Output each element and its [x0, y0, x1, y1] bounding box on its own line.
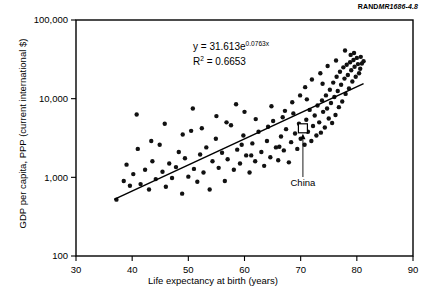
data-point [259, 150, 263, 154]
data-point [361, 59, 365, 63]
data-point [216, 166, 220, 170]
data-point [305, 97, 309, 101]
data-point [239, 142, 243, 146]
data-point [200, 126, 204, 130]
data-point [309, 139, 313, 143]
data-point [304, 118, 308, 122]
data-point [287, 160, 291, 164]
figure-root: RANDMR1686-4.8 GDP per capita, PPP (curr… [0, 0, 426, 298]
data-point [214, 136, 218, 140]
y-tick-label: 1,000 [44, 172, 68, 183]
data-point [350, 79, 354, 83]
data-point [204, 145, 208, 149]
data-point [174, 165, 178, 169]
data-point [244, 153, 248, 157]
data-point [334, 58, 338, 62]
data-point [136, 147, 140, 151]
regression-equation-line1: y = 31.613e0.0763x [193, 40, 270, 52]
data-point [201, 170, 205, 174]
data-point [229, 123, 233, 127]
x-tick-label: 40 [127, 264, 138, 275]
data-point [170, 176, 174, 180]
data-point [149, 139, 153, 143]
data-point [317, 120, 321, 124]
data-point [207, 187, 211, 191]
y-axis-ticks: 1001,00010,000100,000 [34, 14, 76, 261]
x-tick-label: 90 [408, 264, 419, 275]
data-point [311, 124, 315, 128]
x-axis-ticks: 30405060708090 [71, 256, 419, 275]
data-point [282, 148, 286, 152]
data-point [242, 110, 246, 114]
data-point [164, 185, 168, 189]
data-point [354, 75, 358, 79]
data-point [131, 172, 135, 176]
data-point [223, 179, 227, 183]
data-point [234, 102, 238, 106]
data-point [167, 161, 171, 165]
data-point [210, 159, 214, 163]
data-point [253, 159, 257, 163]
data-point [319, 130, 323, 134]
data-point [280, 115, 284, 119]
data-point [250, 141, 254, 145]
data-point [333, 113, 337, 117]
x-tick-label: 80 [352, 264, 363, 275]
data-point [160, 169, 164, 173]
data-point [318, 71, 322, 75]
data-point [224, 120, 228, 124]
data-point [268, 155, 272, 159]
data-point [310, 77, 314, 81]
data-point [183, 156, 187, 160]
data-point [163, 122, 167, 126]
data-point [356, 62, 360, 66]
data-point [324, 93, 328, 97]
china-marker [298, 124, 307, 133]
x-tick-label: 60 [239, 264, 250, 275]
data-point [262, 164, 266, 168]
data-point [191, 106, 195, 110]
data-point [247, 170, 251, 174]
data-point [298, 93, 302, 97]
data-point [327, 116, 331, 120]
data-point [355, 56, 359, 60]
data-point [295, 147, 299, 151]
data-point [254, 117, 258, 121]
data-point [225, 157, 229, 161]
data-point [331, 80, 335, 84]
data-point [220, 151, 224, 155]
data-point [189, 129, 193, 133]
scatter-plot: 1001,00010,000100,000 30405060708090 y =… [0, 0, 426, 298]
data-point [337, 105, 341, 109]
y-tick-label: 10,000 [39, 93, 68, 104]
data-point [235, 147, 239, 151]
data-point [349, 68, 353, 72]
data-point [357, 71, 361, 75]
data-point [214, 114, 218, 118]
data-point [321, 110, 325, 114]
data-point [325, 106, 329, 110]
data-point [314, 133, 318, 137]
data-point [352, 51, 356, 55]
data-point [271, 119, 275, 123]
data-point [338, 70, 342, 74]
data-point [265, 139, 269, 143]
y-tick-label: 100 [52, 250, 68, 261]
data-point [124, 162, 128, 166]
x-tick-label: 50 [183, 264, 194, 275]
data-point [320, 81, 324, 85]
data-point [289, 140, 293, 144]
data-point [330, 121, 334, 125]
data-point [241, 133, 245, 137]
data-point [177, 150, 181, 154]
data-point [232, 168, 236, 172]
data-point [192, 167, 196, 171]
data-point [328, 88, 332, 92]
data-point [249, 153, 253, 157]
data-point [342, 76, 346, 80]
data-point [303, 85, 307, 89]
data-point [283, 109, 287, 113]
data-point [323, 125, 327, 129]
data-point [284, 127, 288, 131]
data-point [336, 89, 340, 93]
